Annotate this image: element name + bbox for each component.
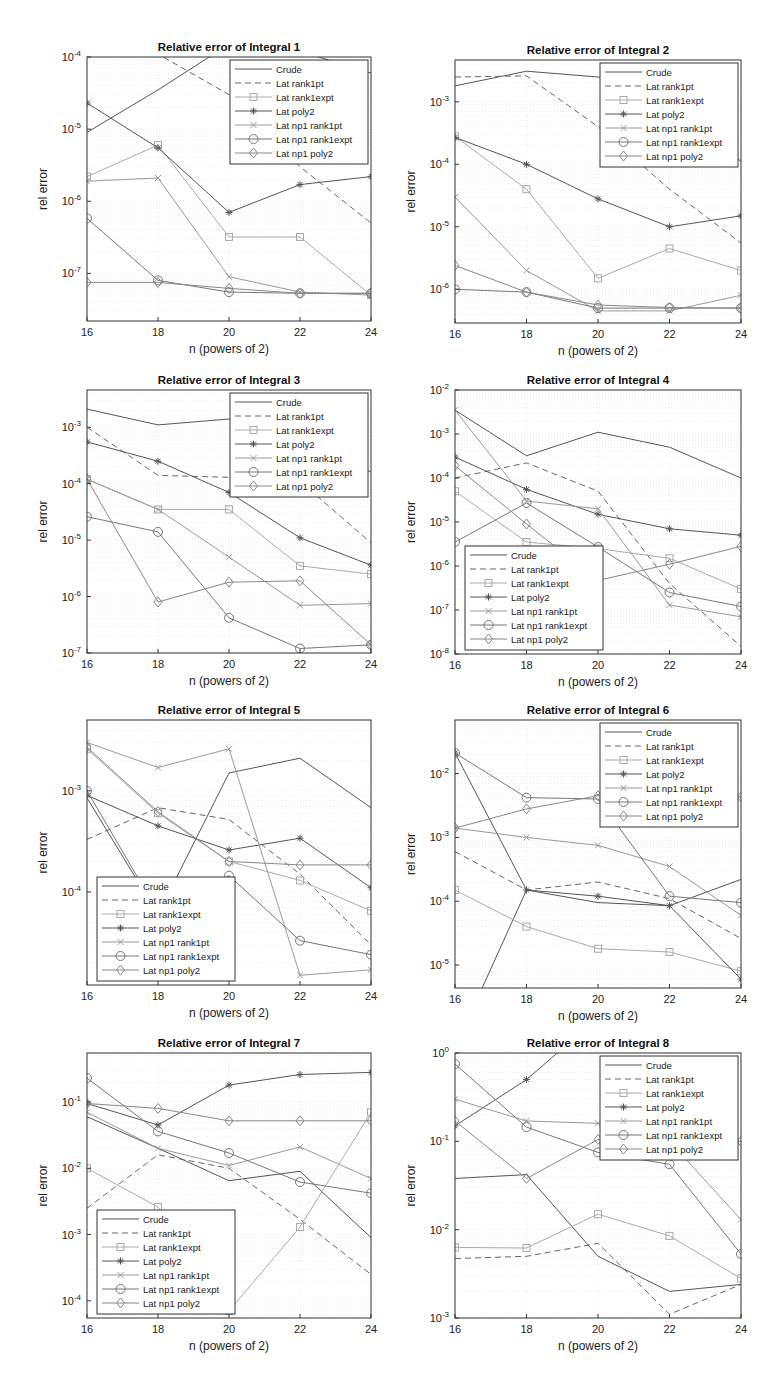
- y-tick-label: 10-6: [62, 589, 82, 603]
- legend-entry: Crude: [646, 727, 672, 738]
- y-tick-label: 10-5: [430, 514, 450, 528]
- legend-entry: Lat rank1pt: [276, 411, 324, 422]
- legend: CrudeLat rank1ptLat rank1exptLat poly2La…: [465, 546, 603, 650]
- chart-panel-5: 161820222410-310-4Relative error of Inte…: [36, 704, 377, 1020]
- chart-panel-8: 161820222410010-110-210-3Relative error …: [404, 1007, 747, 1353]
- y-tick-label: 10-4: [62, 49, 82, 63]
- x-tick-label: 20: [223, 658, 235, 670]
- x-tick-label: 18: [520, 1323, 532, 1335]
- x-axis-label: n (powers of 2): [189, 342, 269, 356]
- chart-canvas: 161820222410-410-510-610-7Relative error…: [0, 0, 783, 1393]
- y-tick-label: 10-4: [62, 476, 82, 490]
- x-tick-label: 16: [449, 1323, 461, 1335]
- x-axis-label: n (powers of 2): [189, 674, 269, 688]
- legend-entry: Lat np1 rank1pt: [143, 937, 209, 948]
- legend-entry: Lat np1 poly2: [646, 151, 703, 162]
- x-tick-label: 20: [223, 1323, 235, 1335]
- y-axis-label: rel error: [36, 168, 50, 210]
- legend-entry: Lat np1 rank1expt: [511, 620, 587, 631]
- x-tick-label: 20: [592, 659, 604, 671]
- x-axis-label: n (powers of 2): [558, 344, 638, 358]
- chart-title: Relative error of Integral 1: [158, 41, 301, 53]
- chart-title: Relative error of Integral 8: [527, 1037, 670, 1049]
- y-axis-label: rel error: [36, 1164, 50, 1206]
- figure-grid: 161820222410-410-510-610-7Relative error…: [0, 0, 783, 1393]
- legend: CrudeLat rank1ptLat rank1exptLat poly2La…: [97, 877, 235, 981]
- legend-entry: Lat np1 rank1pt: [646, 123, 712, 134]
- y-tick-label: 10-7: [62, 645, 82, 659]
- legend-entry: Crude: [646, 67, 672, 78]
- chart-panel-3: 161820222410-310-410-510-610-7Relative e…: [36, 374, 377, 688]
- legend-entry: Lat poly2: [276, 106, 315, 117]
- x-tick-label: 16: [81, 990, 93, 1002]
- y-axis-label: rel error: [36, 500, 50, 542]
- x-tick-label: 22: [663, 659, 675, 671]
- x-tick-label: 22: [663, 993, 675, 1005]
- x-tick-label: 16: [81, 1323, 93, 1335]
- y-tick-label: 10-5: [62, 532, 82, 546]
- legend: CrudeLat rank1ptLat rank1exptLat poly2La…: [600, 63, 738, 167]
- x-tick-label: 22: [294, 658, 306, 670]
- legend-entry: Lat np1 rank1expt: [646, 137, 722, 148]
- legend-entry: Lat np1 poly2: [646, 811, 703, 822]
- x-tick-label: 16: [81, 326, 93, 338]
- x-tick-label: 18: [152, 1323, 164, 1335]
- legend-entry: Lat rank1expt: [143, 909, 201, 920]
- y-tick-label: 10-3: [430, 426, 450, 440]
- y-tick-label: 10-1: [62, 1094, 82, 1108]
- legend-entry: Lat np1 rank1pt: [276, 453, 342, 464]
- x-tick-label: 20: [592, 1323, 604, 1335]
- chart-panel-7: 161820222410-110-210-310-4Relative error…: [36, 1037, 377, 1353]
- x-tick-label: 24: [735, 659, 747, 671]
- x-tick-label: 20: [223, 990, 235, 1002]
- legend-entry: Crude: [143, 881, 169, 892]
- y-tick-label: 10-3: [62, 1227, 82, 1241]
- x-tick-label: 24: [365, 658, 377, 670]
- chart-title: Relative error of Integral 7: [158, 1037, 301, 1049]
- legend-entry: Lat rank1pt: [276, 78, 324, 89]
- legend-entry: Lat np1 rank1pt: [143, 1270, 209, 1281]
- x-tick-label: 18: [152, 658, 164, 670]
- legend-entry: Lat np1 poly2: [646, 1144, 703, 1155]
- y-axis-label: rel error: [404, 170, 418, 212]
- y-tick-label: 10-4: [62, 884, 82, 898]
- legend-entry: Lat poly2: [276, 439, 315, 450]
- x-tick-label: 16: [449, 659, 461, 671]
- y-tick-label: 10-5: [62, 121, 82, 135]
- legend-entry: Lat rank1expt: [511, 578, 569, 589]
- y-tick-label: 10-4: [430, 156, 450, 170]
- legend: CrudeLat rank1ptLat rank1exptLat poly2La…: [230, 393, 368, 497]
- y-tick-label: 10-3: [62, 783, 82, 797]
- x-tick-label: 16: [449, 328, 461, 340]
- legend-entry: Lat rank1pt: [646, 81, 694, 92]
- legend-entry: Lat rank1expt: [276, 425, 334, 436]
- x-tick-label: 22: [294, 1323, 306, 1335]
- legend-entry: Lat rank1expt: [143, 1242, 201, 1253]
- x-tick-label: 24: [735, 1323, 747, 1335]
- legend-entry: Lat np1 rank1pt: [646, 1116, 712, 1127]
- x-axis-label: n (powers of 2): [189, 1006, 269, 1020]
- legend-entry: Crude: [143, 1214, 169, 1225]
- x-tick-label: 24: [735, 993, 747, 1005]
- x-tick-label: 18: [520, 993, 532, 1005]
- legend: CrudeLat rank1ptLat rank1exptLat poly2La…: [230, 60, 368, 164]
- legend-entry: Lat np1 poly2: [143, 965, 200, 976]
- legend: CrudeLat rank1ptLat rank1exptLat poly2La…: [600, 1056, 738, 1160]
- legend-entry: Crude: [646, 1060, 672, 1071]
- y-tick-label: 10-5: [430, 957, 450, 971]
- y-tick-label: 10-2: [430, 382, 450, 396]
- legend-entry: Lat rank1pt: [646, 1074, 694, 1085]
- legend-entry: Lat np1 rank1expt: [646, 797, 722, 808]
- y-tick-label: 10-5: [430, 219, 450, 233]
- x-axis-label: n (powers of 2): [558, 1339, 638, 1353]
- y-tick-label: 10-8: [430, 646, 450, 660]
- legend-entry: Lat np1 rank1expt: [276, 467, 352, 478]
- y-tick-label: 10-6: [62, 193, 82, 207]
- y-tick-label: 10-4: [430, 470, 450, 484]
- y-tick-label: 10-4: [430, 893, 450, 907]
- legend-entry: Lat rank1pt: [143, 895, 191, 906]
- x-tick-label: 22: [294, 990, 306, 1002]
- y-axis-label: rel error: [404, 501, 418, 543]
- legend-entry: Lat poly2: [143, 923, 182, 934]
- chart-title: Relative error of Integral 4: [527, 374, 670, 386]
